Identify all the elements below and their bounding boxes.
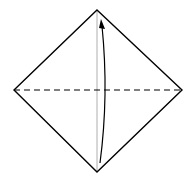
origami-diagram [0, 0, 190, 183]
background [0, 0, 190, 183]
